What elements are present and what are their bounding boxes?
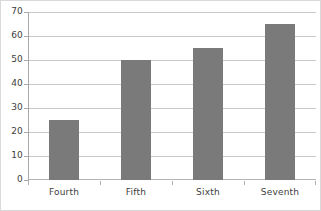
x-axis-tick-labels: FourthFifthSixthSeventh — [28, 187, 316, 203]
y-axis-tick-labels: 010203040506070 — [1, 1, 23, 211]
y-axis-tick — [24, 108, 28, 109]
x-axis-ticks — [28, 181, 316, 186]
x-axis-tick — [100, 181, 101, 185]
x-axis-tick-label: Fourth — [28, 187, 100, 198]
y-axis-tick — [24, 156, 28, 157]
chart-frame: 010203040506070 FourthFifthSixthSeventh — [0, 0, 321, 211]
y-axis-tick-label: 10 — [1, 151, 23, 160]
y-axis-tick — [24, 60, 28, 61]
bar — [193, 48, 223, 180]
x-axis-tick-label: Fifth — [100, 187, 172, 198]
y-axis-tick — [24, 132, 28, 133]
y-axis-tick — [24, 180, 28, 181]
x-axis-tick — [315, 181, 316, 185]
y-axis-tick — [24, 84, 28, 85]
x-axis-tick-label: Seventh — [244, 187, 316, 198]
y-axis-tick-label: 40 — [1, 79, 23, 88]
y-axis-tick-label: 50 — [1, 55, 23, 64]
y-axis-tick-label: 60 — [1, 31, 23, 40]
bar — [265, 24, 295, 180]
bar-series — [28, 12, 316, 180]
x-axis-tick-label: Sixth — [172, 187, 244, 198]
x-axis-tick — [244, 181, 245, 185]
y-axis-tick-label: 30 — [1, 103, 23, 112]
y-axis-tick — [24, 36, 28, 37]
y-axis-tick-label: 20 — [1, 127, 23, 136]
y-axis-tick-label: 70 — [1, 7, 23, 16]
x-axis-tick — [28, 181, 29, 185]
y-axis-line — [28, 12, 29, 181]
bar — [49, 120, 79, 180]
y-axis-tick-label: 0 — [1, 175, 23, 184]
plot-area — [28, 12, 316, 180]
x-axis-tick — [172, 181, 173, 185]
y-axis-tick — [24, 12, 28, 13]
bar — [121, 60, 151, 180]
